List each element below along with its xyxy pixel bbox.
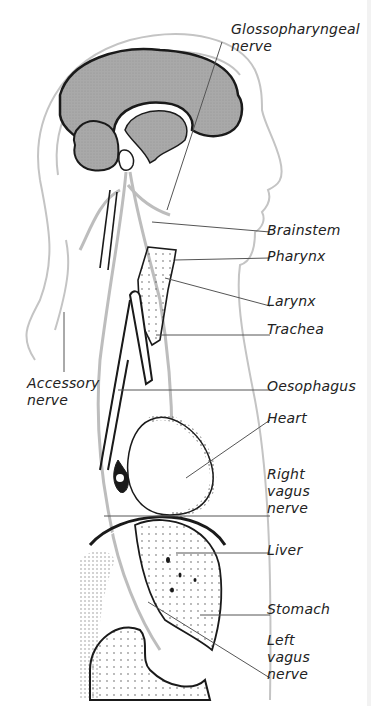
stomach — [90, 627, 210, 700]
heart — [128, 417, 213, 515]
label-heart: Heart — [267, 410, 307, 427]
page-edge — [367, 0, 371, 706]
label-oesophagus: Oesophagus — [267, 378, 356, 395]
label-left-vagus-nerve: Left vagus nerve — [267, 632, 310, 683]
label-pharynx: Pharynx — [267, 248, 326, 265]
label-liver: Liver — [267, 542, 302, 559]
label-accessory-nerve: Accessory nerve — [27, 375, 100, 409]
brain — [60, 49, 242, 170]
label-stomach: Stomach — [267, 601, 330, 618]
vagus-nerve-diagram: Glossopharyngeal nerve Brainstem Pharynx… — [0, 0, 371, 706]
label-trachea: Trachea — [267, 321, 324, 338]
label-larynx: Larynx — [267, 293, 316, 310]
label-right-vagus-nerve: Right vagus nerve — [267, 466, 310, 517]
label-brainstem: Brainstem — [267, 222, 341, 239]
label-glossopharyngeal-nerve: Glossopharyngeal nerve — [231, 21, 360, 55]
